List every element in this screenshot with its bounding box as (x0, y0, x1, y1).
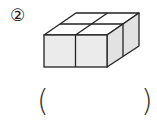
answer-blank[interactable] (52, 92, 140, 118)
close-paren: ) (141, 86, 153, 116)
open-paren: ( (37, 86, 49, 116)
